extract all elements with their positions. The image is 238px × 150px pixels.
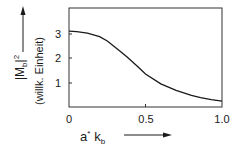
y-tick-label-1: 1 xyxy=(55,77,61,89)
x-tick-label-1-0: 1.0 xyxy=(214,113,229,125)
x-axis-arrow-icon xyxy=(124,133,172,138)
y-tick-label-2: 2 xyxy=(55,52,61,64)
x-tick-label-0-5: 0.5 xyxy=(138,113,153,125)
data-curve xyxy=(69,31,222,101)
svg-text:(willk. Einheit): (willk. Einheit) xyxy=(33,37,45,105)
svg-text:|Mb|2: |Mb|2 xyxy=(12,54,29,80)
x-axis-label: a*kb xyxy=(80,129,106,146)
x-tick-label-0: 0 xyxy=(66,113,72,125)
svg-text:a*kb: a*kb xyxy=(80,129,106,146)
y-axis-unit: (willk. Einheit) xyxy=(33,37,45,105)
y-axis-arrow-icon xyxy=(21,6,26,52)
y-axis-label: |Mb|2 xyxy=(12,54,29,80)
y-tick-label-3: 3 xyxy=(55,28,61,40)
chart: 3 2 1 0 0.5 1.0 a*kb |Mb|2 (willk. Einhe… xyxy=(0,0,238,150)
plot-frame xyxy=(69,8,222,107)
